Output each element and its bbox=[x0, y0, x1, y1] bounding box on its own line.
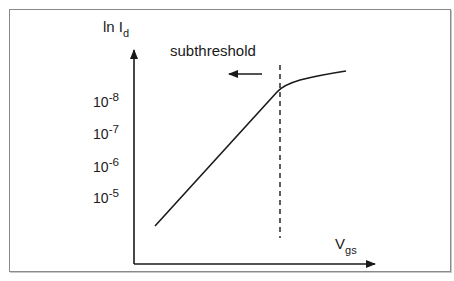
x-axis-label: Vgs bbox=[335, 236, 357, 256]
y-tick-1e-7: 10-7 bbox=[79, 123, 119, 141]
y-tick-1e-5: 10-5 bbox=[79, 187, 119, 205]
subthreshold-label: subthreshold bbox=[170, 43, 256, 58]
y-axis-label: ln Id bbox=[103, 19, 129, 39]
y-tick-1e-8: 10-8 bbox=[79, 91, 119, 109]
y-tick-1e-6: 10-6 bbox=[79, 156, 119, 174]
id-vgs-curve bbox=[155, 71, 346, 226]
